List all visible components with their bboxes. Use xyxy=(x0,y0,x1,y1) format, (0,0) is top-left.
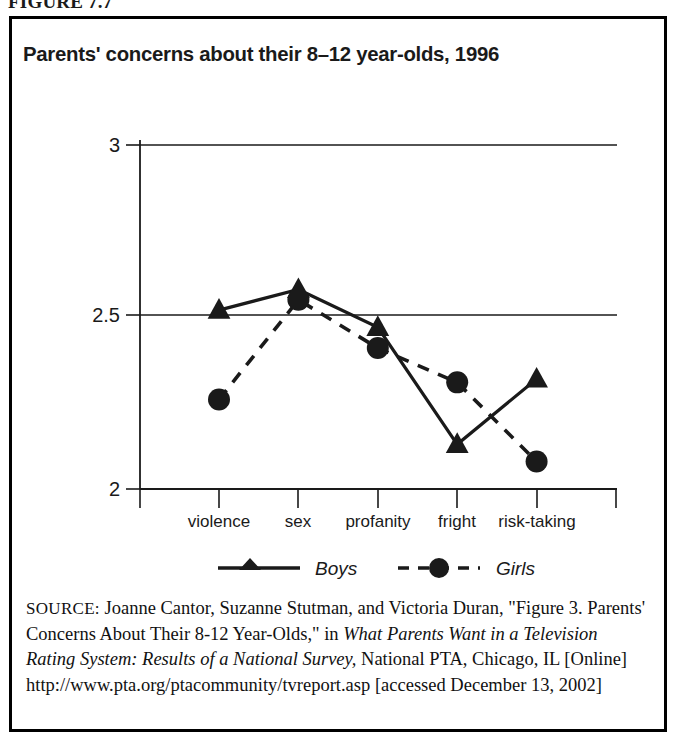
y-tick-label-3: 3 xyxy=(109,134,120,156)
series-line-boys xyxy=(219,290,537,445)
x-tick-label-risk-taking: risk-taking xyxy=(498,512,575,531)
chart-plot-area: 3 2.5 2 violence sex profanity fright ri… xyxy=(0,0,675,600)
legend-label-girls: Girls xyxy=(496,558,536,579)
x-tick-label-fright: fright xyxy=(438,512,476,531)
chart-legend: Boys Girls xyxy=(218,558,536,579)
x-tick-marks xyxy=(140,489,616,508)
datapoint-boys-sex xyxy=(287,277,310,298)
y-tick-label-2-5: 2.5 xyxy=(92,304,120,326)
legend-circle-icon-girls xyxy=(429,558,449,578)
x-tick-label-sex: sex xyxy=(285,512,312,531)
source-note: SOURCE: Joanne Cantor, Suzanne Stutman, … xyxy=(26,596,646,698)
line-chart-svg: 3 2.5 2 violence sex profanity fright ri… xyxy=(0,0,675,600)
datapoint-boys-risk-taking xyxy=(525,367,548,388)
datapoint-girls-fright xyxy=(446,371,468,393)
x-tick-label-profanity: profanity xyxy=(345,512,411,531)
datapoint-girls-risk-taking xyxy=(526,450,548,472)
y-tick-marks xyxy=(126,145,140,489)
legend-label-boys: Boys xyxy=(315,558,358,579)
datapoint-girls-profanity xyxy=(367,337,389,359)
datapoint-girls-violence xyxy=(208,389,230,411)
y-tick-label-2: 2 xyxy=(109,478,120,500)
x-tick-label-violence: violence xyxy=(188,512,250,531)
source-label: SOURCE: xyxy=(26,599,100,618)
legend-triangle-icon-boys xyxy=(239,558,261,570)
series-markers-boys xyxy=(208,277,548,452)
polyline-boys xyxy=(219,290,537,445)
datapoint-boys-profanity xyxy=(366,315,389,336)
